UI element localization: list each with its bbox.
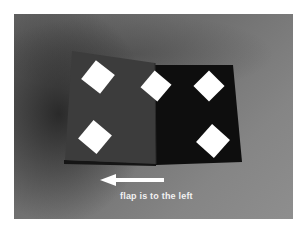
- folded-card-illustration: [14, 14, 293, 219]
- annotation-caption: flap is to the left: [120, 191, 193, 201]
- left-arrow-icon: [100, 174, 164, 186]
- card-left-flap: [65, 51, 156, 164]
- scene: [14, 14, 293, 219]
- photo: [14, 14, 293, 219]
